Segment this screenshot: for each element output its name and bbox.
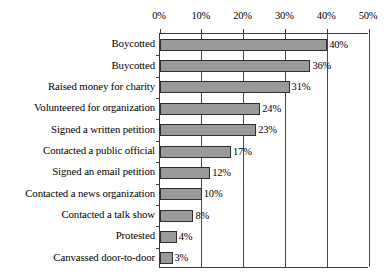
y-axis-tick-mark <box>156 141 160 142</box>
x-axis-tick-mark <box>285 29 286 34</box>
x-axis-tick-mark <box>243 29 244 34</box>
x-axis-tick-label: 10% <box>184 10 218 21</box>
y-axis-tick-mark <box>156 119 160 120</box>
category-label: Signed a written petition <box>3 123 155 135</box>
bar <box>160 60 310 72</box>
bar-value-label: 17% <box>233 146 252 158</box>
bar <box>160 210 193 222</box>
bar-value-label: 10% <box>204 188 223 200</box>
y-axis-tick-mark <box>156 205 160 206</box>
category-label: Boycotted <box>3 37 155 49</box>
y-axis-tick-mark <box>156 248 160 249</box>
x-axis-tick-mark <box>160 29 161 34</box>
y-axis-tick-mark <box>156 184 160 185</box>
bar-value-label: 40% <box>329 39 348 51</box>
x-axis-tick-mark <box>327 29 328 34</box>
bar-value-label: 23% <box>258 124 277 136</box>
bar-value-label: 24% <box>262 103 281 115</box>
bar-value-label: 36% <box>312 60 331 72</box>
bar <box>160 81 290 93</box>
category-label: Contacted a public official <box>3 144 155 156</box>
bar <box>160 39 327 51</box>
y-axis-tick-mark <box>156 226 160 227</box>
x-axis-tick-label: 40% <box>309 10 343 21</box>
y-axis-tick-mark <box>156 77 160 78</box>
category-label: Volunteered for organization <box>3 101 155 113</box>
bar <box>160 252 173 264</box>
bar <box>160 124 256 136</box>
bar-value-label: 12% <box>212 167 231 179</box>
category-label-column: BoycottedBuycottedRaised money for chari… <box>0 33 155 268</box>
x-axis-tick-label: 20% <box>226 10 260 21</box>
plot-area: 40%36%31%24%23%17%12%10%8%4%3% <box>159 33 368 268</box>
bar <box>160 167 210 179</box>
y-axis-tick-mark <box>156 98 160 99</box>
bar <box>160 103 260 115</box>
category-label: Buycotted <box>3 59 155 71</box>
category-label: Signed an email petition <box>3 165 155 177</box>
bar-value-label: 31% <box>292 81 311 93</box>
category-label: Protested <box>3 229 155 241</box>
category-label: Contacted a talk show <box>3 208 155 220</box>
bar-value-label: 4% <box>179 231 193 243</box>
bar <box>160 188 202 200</box>
gridline-50 <box>369 34 370 267</box>
x-axis-tick-mark <box>201 29 202 34</box>
category-label: Canvassed door-to-door <box>3 251 155 263</box>
bar-value-label: 3% <box>175 252 189 264</box>
category-label: Contacted a news organization <box>3 187 155 199</box>
bar-value-label: 8% <box>195 210 209 222</box>
bar <box>160 231 177 243</box>
bar <box>160 146 231 158</box>
y-axis-tick-mark <box>156 55 160 56</box>
x-axis-tick-label: 50% <box>351 10 385 21</box>
y-axis-tick-mark <box>156 162 160 163</box>
bar-chart: 0%10%20%30%40%50% BoycottedBuycottedRais… <box>0 0 388 279</box>
x-axis-tick-label: 30% <box>267 10 301 21</box>
x-axis-tick-label: 0% <box>142 10 176 21</box>
x-axis-tick-mark <box>369 29 370 34</box>
category-label: Raised money for charity <box>3 80 155 92</box>
